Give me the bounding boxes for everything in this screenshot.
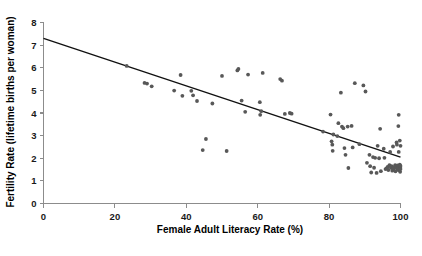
y-tick-label-1: 1 [31,175,37,186]
data-point [290,112,294,116]
data-point [361,83,365,87]
data-point [339,91,343,95]
data-point [343,146,347,150]
data-point [237,67,241,71]
data-point [391,145,395,149]
data-point [283,112,287,116]
data-point [225,149,229,153]
data-point [382,147,386,151]
tick-marks [40,23,401,208]
y-tick-label-7: 7 [31,40,36,51]
data-point [220,74,224,78]
data-point [191,93,195,97]
data-point [195,99,199,103]
y-tick-label-6: 6 [31,62,36,73]
data-point [353,81,357,85]
data-point [346,166,350,170]
y-tick-label-5: 5 [31,85,37,96]
x-tick-label-60: 60 [252,211,263,222]
data-point [398,139,402,143]
data-point [388,150,392,154]
x-tick-label-0: 0 [41,211,46,222]
data-point [261,71,265,75]
data-point [379,169,383,173]
data-point [372,166,376,170]
data-point [204,137,208,141]
data-point [246,73,250,77]
data-point [368,153,372,157]
data-point [259,109,263,113]
data-point [376,144,380,148]
data-point [336,121,340,125]
data-point [321,130,325,134]
x-tick-label-100: 100 [393,211,409,222]
data-point [346,125,350,129]
x-tick-label-80: 80 [324,211,335,222]
data-point [397,113,401,117]
data-point [179,73,183,77]
y-tick-label-2: 2 [31,153,36,164]
data-point [210,102,214,106]
x-axis-title: Female Adult Literacy Rate (%) [157,224,303,235]
data-point [399,144,403,148]
data-point [189,89,193,93]
data-point [383,156,387,160]
data-point [172,89,176,93]
data-point [331,149,335,153]
data-point [358,142,362,146]
data-point [341,126,345,130]
data-point [330,143,334,147]
y-tick-label-4: 4 [31,108,37,119]
data-point [396,124,400,128]
tick-labels: 012345678020406080100 [31,17,408,222]
y-axis-title: Fertility Rate (lifetime births per woma… [5,16,16,207]
data-points [125,64,403,175]
regression-line [44,38,401,157]
data-point [369,171,373,175]
data-point [258,113,262,117]
data-point [375,171,379,175]
data-point [150,84,154,88]
data-point [243,110,247,114]
fertility-literacy-scatter-chart: 012345678020406080100 Female Adult Liter… [0,0,422,256]
data-point [331,133,335,137]
data-point [364,90,368,94]
axes [44,22,401,204]
data-point [350,124,354,128]
data-point [368,164,372,168]
data-point [330,139,334,143]
data-point [395,143,399,147]
y-tick-label-3: 3 [31,130,36,141]
data-point [365,161,369,165]
data-point [201,148,205,152]
x-tick-label-20: 20 [110,211,121,222]
data-point [344,153,348,157]
data-point [335,134,339,138]
data-point [240,99,244,103]
data-point [329,113,333,117]
data-point [373,156,377,160]
chart-canvas: 012345678020406080100 Female Adult Liter… [0,0,422,256]
y-tick-label-8: 8 [31,17,36,28]
data-point [378,127,382,131]
data-point [351,145,355,149]
x-tick-label-40: 40 [181,211,192,222]
trend-line [44,38,401,157]
data-point [280,79,284,83]
data-point [397,150,401,154]
data-point [399,164,403,168]
data-point [258,100,262,104]
data-point [145,82,149,86]
data-point [377,156,381,160]
data-point [125,64,129,68]
data-point [180,94,184,98]
y-tick-label-0: 0 [31,198,36,209]
